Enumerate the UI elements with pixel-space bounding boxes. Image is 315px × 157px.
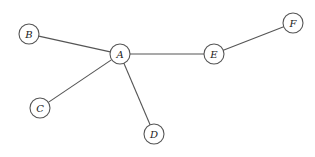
- graph-diagram: ABCDEF: [0, 0, 315, 157]
- edge-a-c: [48, 60, 111, 103]
- node-label: B: [24, 29, 32, 40]
- node-d: D: [144, 124, 164, 144]
- edge-a-b: [39, 36, 110, 52]
- edges-layer: [39, 27, 284, 125]
- node-label: D: [149, 129, 158, 140]
- node-b: B: [19, 24, 39, 44]
- node-label: F: [289, 18, 298, 29]
- node-label: C: [36, 103, 44, 114]
- edge-e-f: [223, 27, 283, 51]
- nodes-layer: ABCDEF: [19, 13, 303, 144]
- node-f: F: [283, 13, 303, 33]
- node-a: A: [110, 44, 130, 64]
- node-e: E: [204, 44, 224, 64]
- node-label: E: [209, 49, 218, 60]
- node-label: A: [115, 49, 123, 60]
- edge-a-d: [124, 63, 150, 125]
- node-c: C: [30, 98, 50, 118]
